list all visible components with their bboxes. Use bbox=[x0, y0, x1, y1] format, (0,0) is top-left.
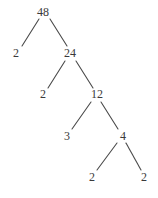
edge-n12-n3 bbox=[72, 102, 91, 129]
edge-n4-n2c bbox=[97, 143, 117, 170]
node-4: 4 bbox=[120, 130, 126, 142]
node-2-left-of-4: 2 bbox=[89, 171, 95, 183]
node-48: 48 bbox=[37, 6, 49, 18]
node-2-left-of-24: 2 bbox=[40, 88, 46, 100]
edge-n24-n12 bbox=[76, 61, 93, 88]
tree-edges bbox=[0, 0, 158, 198]
node-2-left-of-48: 2 bbox=[13, 47, 19, 59]
node-24: 24 bbox=[64, 47, 76, 59]
node-3: 3 bbox=[64, 130, 70, 142]
factor-tree-diagram: 48 2 24 2 12 3 4 2 2 bbox=[0, 0, 158, 198]
edge-n48-n24 bbox=[50, 19, 67, 46]
edge-n4-n2d bbox=[126, 143, 141, 170]
node-12: 12 bbox=[91, 88, 103, 100]
node-2-right-of-4: 2 bbox=[141, 171, 147, 183]
edge-n24-n2b bbox=[48, 61, 65, 88]
edge-n12-n4 bbox=[101, 102, 118, 129]
edge-n48-n2a bbox=[22, 19, 39, 46]
